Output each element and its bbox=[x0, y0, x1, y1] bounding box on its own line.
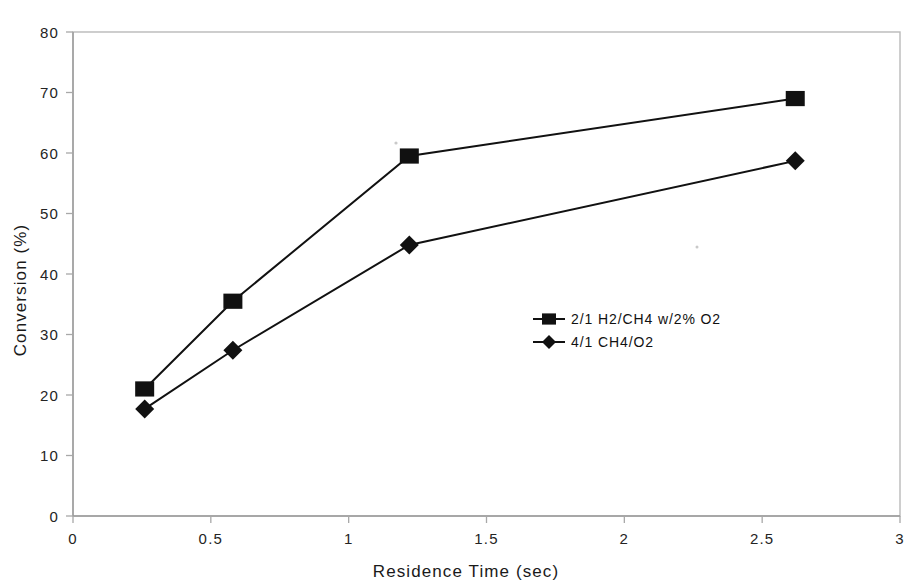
data-point-marker-square bbox=[400, 148, 419, 163]
data-point-marker-diamond bbox=[786, 151, 805, 170]
data-point-marker-square bbox=[135, 381, 154, 396]
plot-frame bbox=[73, 32, 900, 516]
data-point-marker-square bbox=[786, 91, 805, 106]
chart-legend: 2/1 H2/CH4 w/2% O24/1 CH4/O2 bbox=[533, 311, 721, 350]
scan-speck-icon bbox=[696, 246, 699, 249]
conversion-vs-residence-time-chart: 01020304050607080 00.511.522.53 2/1 H2/C… bbox=[0, 0, 913, 588]
y-tick-label: 50 bbox=[40, 205, 59, 222]
x-tick-label: 0.5 bbox=[199, 530, 223, 547]
y-tick-label: 10 bbox=[40, 447, 59, 464]
y-tick-label: 40 bbox=[40, 266, 59, 283]
x-axis-ticks: 00.511.522.53 bbox=[68, 516, 905, 547]
x-tick-label: 1 bbox=[344, 530, 354, 547]
y-tick-label: 70 bbox=[40, 84, 59, 101]
data-series-group bbox=[135, 91, 805, 418]
x-tick-label: 0 bbox=[68, 530, 78, 547]
legend-marker-diamond bbox=[542, 335, 556, 349]
x-axis-title: Residence Time (sec) bbox=[373, 562, 559, 581]
legend-label-1: 4/1 CH4/O2 bbox=[571, 334, 654, 350]
data-point-marker-square bbox=[223, 294, 242, 309]
y-axis-ticks: 01020304050607080 bbox=[40, 24, 73, 525]
y-tick-label: 80 bbox=[40, 24, 59, 41]
x-tick-label: 2 bbox=[620, 530, 630, 547]
y-axis-title: Conversion (%) bbox=[11, 224, 30, 357]
data-point-marker-diamond bbox=[400, 235, 419, 254]
y-tick-label: 0 bbox=[49, 508, 59, 525]
y-tick-label: 20 bbox=[40, 387, 59, 404]
x-tick-label: 3 bbox=[895, 530, 905, 547]
data-point-marker-diamond bbox=[135, 399, 154, 418]
x-tick-label: 1.5 bbox=[474, 530, 498, 547]
chart-container: 01020304050607080 00.511.522.53 2/1 H2/C… bbox=[0, 0, 913, 588]
plot-border bbox=[73, 32, 900, 516]
y-tick-label: 30 bbox=[40, 326, 59, 343]
data-point-marker-diamond bbox=[223, 341, 242, 360]
series-line-1 bbox=[145, 161, 796, 409]
y-tick-label: 60 bbox=[40, 145, 59, 162]
scan-speck-icon bbox=[394, 141, 397, 144]
legend-marker-square bbox=[542, 313, 556, 324]
x-tick-label: 2.5 bbox=[750, 530, 774, 547]
legend-label-0: 2/1 H2/CH4 w/2% O2 bbox=[571, 311, 721, 327]
